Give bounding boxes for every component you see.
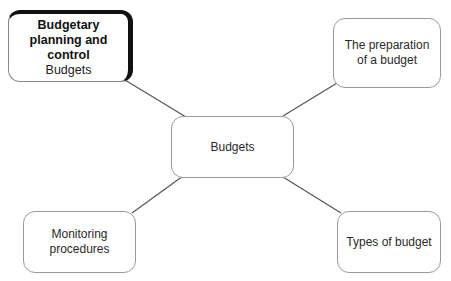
node-center-budgets: Budgets: [171, 116, 294, 178]
center-label: Budgets: [210, 140, 254, 155]
main-node-title-1: Budgetary: [38, 18, 100, 33]
node-preparation: The preparation of a budget: [333, 18, 441, 88]
node-types: Types of budget: [337, 211, 441, 273]
types-label: Types of budget: [346, 235, 431, 250]
main-node-subtitle: Budgets: [46, 63, 92, 78]
monitoring-line-2: procedures: [49, 242, 109, 257]
edge-to-main: [125, 80, 186, 117]
preparation-line-2: of a budget: [357, 53, 417, 68]
main-node-title-2: planning and control: [9, 33, 128, 63]
edge-to-monitoring: [132, 176, 183, 213]
node-budgetary-planning: Budgetary planning and control Budgets: [8, 10, 133, 82]
monitoring-line-1: Monitoring: [51, 227, 107, 242]
node-monitoring: Monitoring procedures: [23, 211, 136, 273]
preparation-line-1: The preparation: [345, 38, 430, 53]
edge-to-types: [283, 177, 341, 213]
edge-to-preparation: [283, 80, 342, 116]
